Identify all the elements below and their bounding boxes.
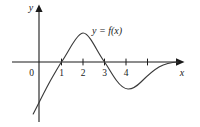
curve-equation-label: y = f(x) <box>91 25 123 37</box>
x-tick-label-4: 4 <box>124 68 129 78</box>
x-tick-label-1: 1 <box>59 68 64 78</box>
plot-area: 1 2 3 4 0 x y y = f(x) <box>0 0 200 127</box>
x-axis-label: x <box>179 67 185 78</box>
x-tick-label-3: 3 <box>102 68 107 78</box>
function-graph-figure: 1 2 3 4 0 x y y = f(x) <box>0 0 200 127</box>
origin-label: 0 <box>29 68 34 78</box>
y-axis-arrow-icon <box>35 5 42 13</box>
y-axis-label: y <box>28 2 34 13</box>
x-tick-label-2: 2 <box>81 68 86 78</box>
